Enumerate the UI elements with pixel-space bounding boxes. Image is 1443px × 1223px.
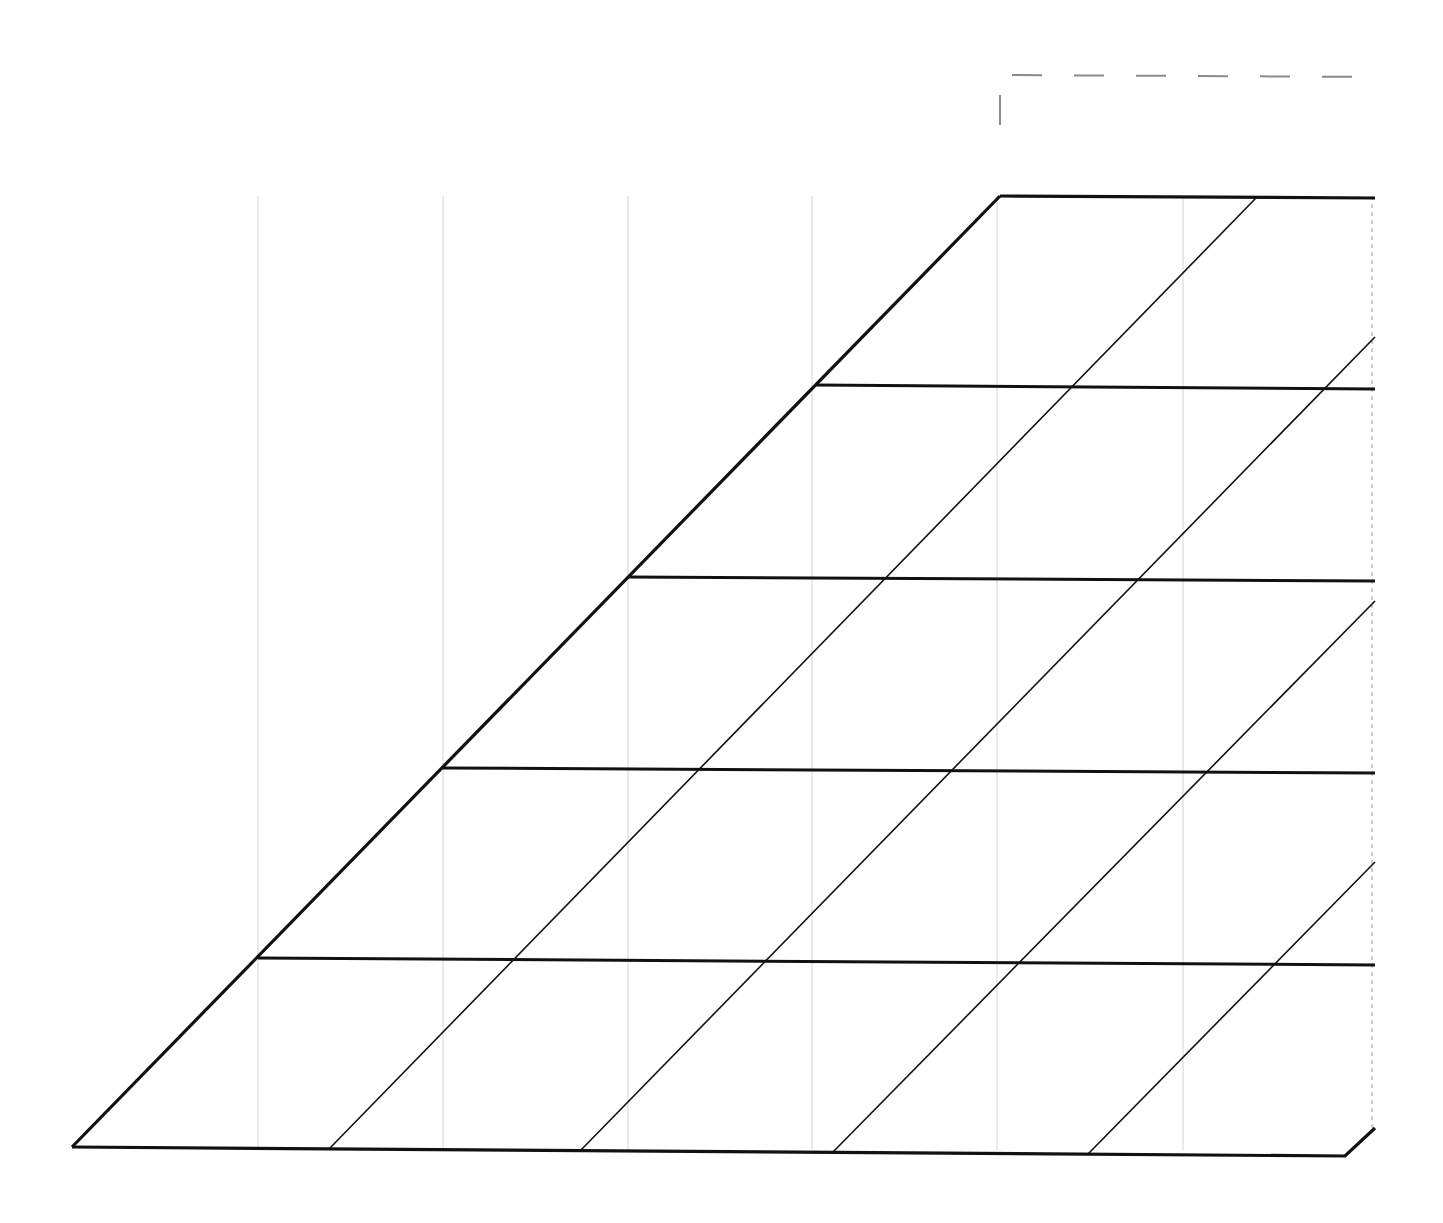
corner-marker-path bbox=[1000, 75, 1380, 125]
diagonal-line bbox=[1088, 862, 1375, 1154]
dashed-corner-marker bbox=[1000, 75, 1380, 125]
diagram-canvas bbox=[0, 0, 1443, 1223]
horizontal-lines bbox=[258, 385, 1375, 965]
horizontal-line bbox=[815, 385, 1375, 389]
horizontal-line bbox=[628, 577, 1375, 581]
horizontal-line bbox=[443, 768, 1375, 773]
diagonal-line bbox=[833, 601, 1375, 1152]
skewed-grid-diagram bbox=[0, 0, 1443, 1223]
diagonal-line bbox=[330, 198, 1256, 1148]
outline-left-edge bbox=[72, 196, 1000, 1147]
horizontal-line bbox=[258, 958, 1375, 965]
diagonal-line bbox=[581, 337, 1375, 1150]
outline-top-edge bbox=[1000, 196, 1375, 198]
diagonal-lines bbox=[330, 198, 1375, 1154]
grid-outline bbox=[72, 196, 1375, 1156]
outline-bottom-edge bbox=[72, 1128, 1375, 1156]
